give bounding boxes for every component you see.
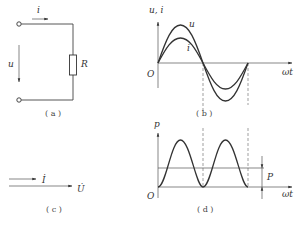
voltage-label: u — [8, 59, 14, 69]
y-axis-label: u, i — [149, 5, 164, 15]
resistor-icon — [70, 55, 77, 75]
x-axis-label: ωt — [282, 189, 293, 199]
p-axis-label: p — [154, 119, 160, 129]
current-phasor-label: İ — [41, 174, 46, 185]
panel-c-phasors: İ U̇ ( c ) — [9, 174, 85, 214]
bottom-wire — [21, 75, 73, 100]
current-curve — [158, 38, 248, 89]
curve-i-label: i — [187, 43, 190, 53]
current-label: i — [37, 5, 40, 15]
panel-d-power: p P O ωt ( d ) — [147, 119, 293, 214]
panel-a-circuit: i u R ( a ) — [8, 5, 88, 118]
x-axis-label: ωt — [282, 67, 293, 77]
voltage-phasor-label: U̇ — [77, 183, 85, 194]
caption-b: ( b ) — [196, 109, 212, 118]
caption-a: ( a ) — [45, 109, 61, 118]
average-power-label: P — [266, 172, 274, 182]
bottom-terminal — [17, 98, 21, 102]
origin-label: O — [147, 191, 155, 201]
top-terminal — [17, 22, 21, 26]
top-wire — [21, 24, 73, 55]
origin-label: O — [147, 69, 155, 79]
figure-canvas: i u R ( a ) u, i u i O ωt ( b ) İ U̇ ( c… — [0, 0, 303, 226]
curve-u-label: u — [189, 19, 195, 29]
resistor-label: R — [80, 59, 88, 69]
caption-d: ( d ) — [197, 205, 213, 214]
panel-b-waveforms: u, i u i O ωt ( b ) — [147, 5, 293, 118]
caption-c: ( c ) — [46, 205, 62, 214]
